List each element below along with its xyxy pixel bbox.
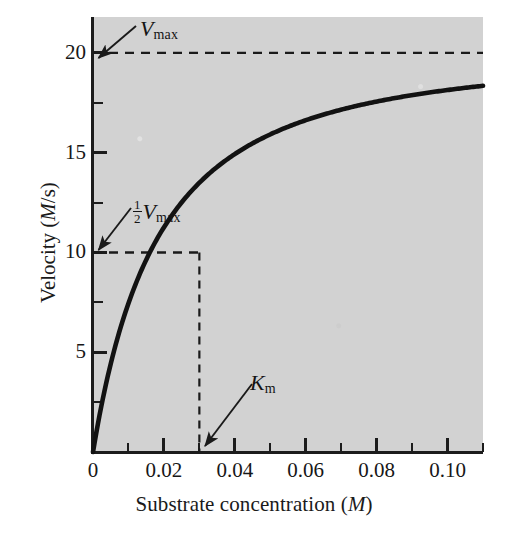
y-axis-title-text: Velocity ( <box>36 221 60 303</box>
michaelis-menten-figure: 510152000.020.040.060.080.10 Vmax 12Vmax… <box>0 0 508 541</box>
y-axis-line <box>91 17 94 454</box>
x-tick-minor <box>340 443 342 452</box>
vmax-subscript: max <box>153 27 178 42</box>
y-tick-minor <box>94 401 103 403</box>
x-tick-major <box>233 438 236 452</box>
y-tick-major <box>94 251 107 254</box>
x-axis-title-text: Substrate concentration ( <box>135 492 347 516</box>
x-tick-minor <box>127 443 129 452</box>
one-half-fraction: 12 <box>133 198 142 226</box>
x-tick-label: 0.06 <box>266 460 346 481</box>
y-tick-major <box>94 351 107 354</box>
y-tick-major <box>94 151 107 154</box>
x-tick-label: 0.04 <box>195 460 275 481</box>
y-tick-minor <box>94 102 103 104</box>
y-tick-minor <box>94 202 103 204</box>
half-vmax-variable: V <box>143 199 156 224</box>
fraction-denominator: 2 <box>133 211 142 225</box>
x-axis-title: Substrate concentration (M) <box>0 492 508 517</box>
x-tick-minor <box>198 443 200 452</box>
x-tick-label: 0 <box>53 460 133 481</box>
x-tick-label: 0.02 <box>124 460 204 481</box>
y-axis-title: Velocity (M/s) <box>36 133 61 353</box>
y-axis-title-unit: M <box>36 203 60 221</box>
plot-area <box>93 17 483 452</box>
x-axis-title-unit: M <box>348 492 366 516</box>
half-vmax-subscript: max <box>156 210 181 225</box>
y-tick-minor <box>94 301 103 303</box>
x-tick-major <box>304 438 307 452</box>
fraction-numerator: 1 <box>133 198 142 211</box>
y-axis-title-close: /s) <box>36 182 60 203</box>
y-tick-label: 20 <box>40 42 86 63</box>
x-tick-major <box>375 438 378 452</box>
x-axis-title-close: ) <box>365 492 372 516</box>
x-tick-label: 0.10 <box>408 460 488 481</box>
km-variable: K <box>250 370 265 395</box>
km-subscript: m <box>265 381 276 396</box>
x-tick-major <box>446 438 449 452</box>
y-tick-major <box>94 51 107 54</box>
x-tick-label: 0.08 <box>337 460 417 481</box>
x-axis-line <box>91 451 483 454</box>
x-tick-major <box>162 438 165 452</box>
x-tick-minor <box>482 443 484 452</box>
vmax-variable: V <box>140 16 153 41</box>
half-vmax-label: 12Vmax <box>133 198 181 226</box>
x-tick-minor <box>411 443 413 452</box>
x-tick-minor <box>269 443 271 452</box>
vmax-label: Vmax <box>140 18 178 42</box>
km-label: Km <box>250 372 276 396</box>
